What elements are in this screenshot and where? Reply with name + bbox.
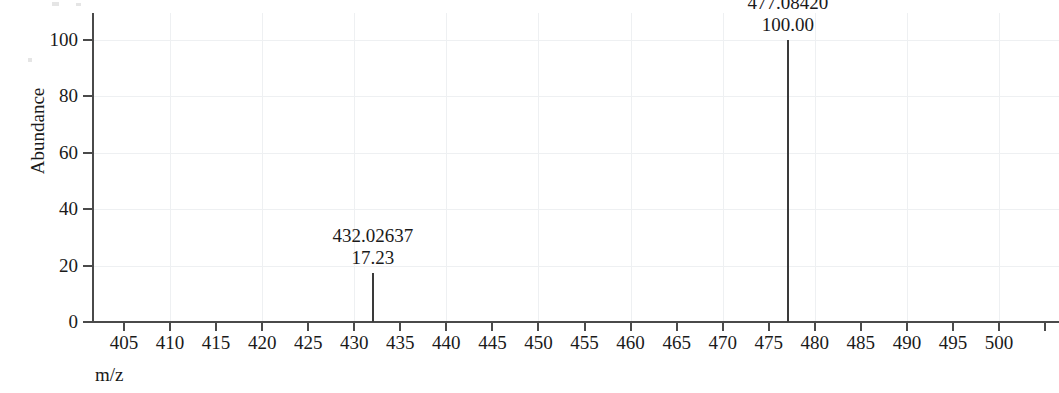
scan-artifact bbox=[28, 58, 32, 62]
gridline-horizontal bbox=[92, 209, 1059, 210]
y-axis-tick bbox=[83, 208, 92, 210]
plot-area bbox=[92, 13, 1059, 322]
x-axis-tick bbox=[537, 323, 539, 331]
peak-intensity-value: 17.23 bbox=[263, 247, 483, 269]
x-axis-title: m/z bbox=[95, 364, 124, 386]
x-axis-tick bbox=[584, 323, 586, 331]
x-axis-tick bbox=[1044, 323, 1046, 331]
x-axis-tick bbox=[676, 323, 678, 331]
x-axis-tick bbox=[215, 323, 217, 331]
gridline-horizontal bbox=[92, 153, 1059, 154]
gridline-vertical bbox=[170, 13, 171, 322]
y-axis-line bbox=[92, 13, 94, 323]
x-axis-line bbox=[92, 321, 1059, 323]
y-axis-tick bbox=[83, 39, 92, 41]
x-axis-tick bbox=[123, 323, 125, 331]
gridline-vertical bbox=[723, 13, 724, 322]
x-axis-tick bbox=[630, 323, 632, 331]
x-axis-tick bbox=[722, 323, 724, 331]
gridline-vertical bbox=[631, 13, 632, 322]
y-axis-tick bbox=[83, 321, 92, 323]
peak-label: 432.0263717.23 bbox=[263, 225, 483, 269]
gridline-vertical bbox=[999, 13, 1000, 322]
x-axis-tick-label: 500 bbox=[969, 333, 1029, 354]
x-axis-tick bbox=[169, 323, 171, 331]
scan-artifact bbox=[52, 2, 59, 6]
x-axis-tick bbox=[353, 323, 355, 331]
x-axis-tick bbox=[399, 323, 401, 331]
peak-mz-value: 432.02637 bbox=[263, 225, 483, 247]
gridline-vertical bbox=[354, 13, 355, 322]
y-axis-tick-label: 80 bbox=[38, 86, 78, 105]
y-axis-tick-label: 40 bbox=[38, 199, 78, 218]
peak-line bbox=[372, 273, 374, 322]
gridline-horizontal bbox=[92, 40, 1059, 41]
y-axis-tick bbox=[83, 152, 92, 154]
y-axis-tick-label: 60 bbox=[38, 143, 78, 162]
x-axis-tick bbox=[998, 323, 1000, 331]
x-axis-tick bbox=[307, 323, 309, 331]
gridline-horizontal bbox=[92, 266, 1059, 267]
peak-line bbox=[787, 40, 789, 322]
x-axis-tick bbox=[906, 323, 908, 331]
gridline-horizontal bbox=[92, 96, 1059, 97]
gridline-vertical bbox=[262, 13, 263, 322]
y-axis-tick-label: 0 bbox=[38, 312, 78, 331]
x-axis-tick bbox=[768, 323, 770, 331]
x-axis-tick bbox=[491, 323, 493, 331]
y-axis-tick-label: 20 bbox=[38, 256, 78, 275]
x-axis-tick bbox=[445, 323, 447, 331]
gridline-vertical bbox=[538, 13, 539, 322]
gridline-vertical bbox=[815, 13, 816, 322]
x-axis-tick bbox=[261, 323, 263, 331]
mass-spectrum-figure: Abundance m/z 020406080100 4054104154204… bbox=[0, 0, 1059, 393]
y-axis-tick bbox=[83, 265, 92, 267]
peak-label: 477.08420100.00 bbox=[678, 0, 898, 36]
scan-artifact bbox=[76, 3, 81, 6]
y-axis-tick-label: 100 bbox=[38, 30, 78, 49]
x-axis-tick bbox=[814, 323, 816, 331]
x-axis-tick bbox=[860, 323, 862, 331]
x-axis-tick bbox=[952, 323, 954, 331]
gridline-vertical bbox=[446, 13, 447, 322]
peak-mz-value: 477.08420 bbox=[678, 0, 898, 14]
peak-intensity-value: 100.00 bbox=[678, 14, 898, 36]
gridline-vertical bbox=[907, 13, 908, 322]
y-axis-tick bbox=[83, 95, 92, 97]
